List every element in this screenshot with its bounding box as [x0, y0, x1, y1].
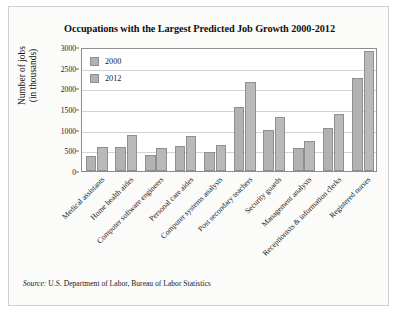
y-axis-tick-mark	[76, 48, 79, 49]
x-axis-category-labels: Medical assistantsHome health aidesCompu…	[81, 173, 381, 273]
source-text: U.S. Department of Labor, Bureau of Labo…	[48, 279, 211, 288]
y-axis-tick-label: 1000	[61, 126, 76, 135]
legend-swatch-2000	[90, 57, 99, 66]
chart-figure: Occupations with the Largest Predicted J…	[8, 6, 389, 306]
y-axis-tick-label: 500	[65, 147, 76, 156]
legend-item-2012: 2012	[90, 72, 121, 85]
y-axis-tick-label: 1500	[61, 106, 76, 115]
legend-label-2000: 2000	[105, 57, 121, 66]
y-axis-tick-label: 2500	[61, 64, 76, 73]
legend: 2000 2012	[90, 55, 121, 89]
y-axis-title-line2: (in thousands)	[28, 21, 39, 131]
y-axis-title-line1: Number of jobs	[17, 21, 28, 131]
source-note: Source: U.S. Department of Labor, Bureau…	[23, 279, 211, 288]
y-axis-tick-mark	[76, 68, 79, 69]
source-prefix: Source:	[23, 279, 46, 288]
y-axis-tick-mark	[76, 172, 79, 173]
legend-swatch-2012	[90, 74, 99, 83]
y-axis-title: Number of jobs (in thousands)	[17, 21, 38, 131]
y-axis-tick-label: 2000	[61, 85, 76, 94]
y-axis-tick-mark	[76, 130, 79, 131]
legend-item-2000: 2000	[90, 55, 121, 68]
chart-title: Occupations with the Largest Predicted J…	[9, 23, 390, 34]
bar-2000	[86, 156, 97, 171]
y-axis-tick-label: 3000	[61, 44, 76, 53]
y-axis-tick-labels: 300025002000150010005000	[43, 48, 79, 172]
y-axis-tick-mark	[76, 110, 79, 111]
legend-label-2012: 2012	[105, 74, 121, 83]
y-axis-tick-mark	[76, 89, 79, 90]
y-axis-tick-mark	[76, 151, 79, 152]
